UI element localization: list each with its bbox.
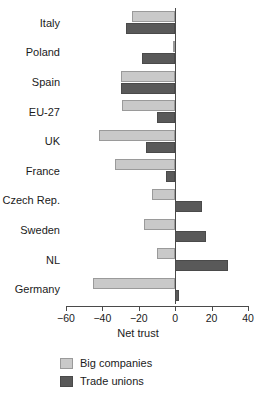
category-label-eu-27: EU-27 — [29, 106, 60, 118]
bar-france-big-companies — [115, 159, 175, 170]
x-axis-line — [66, 306, 248, 307]
category-label-uk: UK — [45, 135, 60, 147]
legend-label-trade-unions: Trade unions — [80, 375, 144, 387]
x-tick-label-40: 40 — [242, 312, 254, 324]
bar-uk-big-companies — [99, 130, 175, 141]
category-label-nl: NL — [46, 254, 60, 266]
category-label-france: France — [26, 165, 60, 177]
bar-nl-trade-unions — [175, 260, 228, 271]
x-tick-neg40 — [102, 306, 103, 311]
category-label-czech-rep: Czech Rep. — [3, 194, 60, 206]
bar-nl-big-companies — [157, 248, 175, 259]
category-label-germany: Germany — [15, 283, 60, 295]
chart-legend: Big companies Trade unions — [60, 355, 152, 391]
x-tick-neg20 — [139, 306, 140, 311]
bar-eu-27-big-companies — [122, 100, 175, 111]
category-label-sweden: Sweden — [20, 224, 60, 236]
bar-sweden-trade-unions — [175, 231, 206, 242]
legend-label-big-companies: Big companies — [80, 357, 152, 369]
legend-item-big-companies: Big companies — [60, 355, 152, 371]
x-tick-20 — [212, 306, 213, 311]
bar-france-trade-unions — [166, 171, 175, 182]
plot-area — [66, 8, 248, 304]
x-tick-label-neg60: −60 — [57, 312, 75, 324]
legend-swatch-big-companies — [60, 358, 73, 369]
bar-czech-rep-trade-unions — [175, 201, 202, 212]
bar-germany-trade-unions — [175, 290, 179, 301]
category-label-poland: Poland — [26, 46, 60, 58]
legend-item-trade-unions: Trade unions — [60, 373, 152, 389]
bar-poland-big-companies — [173, 41, 175, 52]
bar-germany-big-companies — [93, 278, 175, 289]
x-tick-0 — [175, 306, 176, 311]
bar-uk-trade-unions — [146, 142, 175, 153]
bar-italy-trade-unions — [126, 23, 175, 34]
category-label-italy: Italy — [40, 17, 60, 29]
bar-sweden-big-companies — [144, 219, 175, 230]
x-tick-40 — [248, 306, 249, 311]
category-axis-labels: ItalyPolandSpainEU-27UKFranceCzech Rep.S… — [0, 8, 60, 304]
bar-italy-big-companies — [132, 11, 176, 22]
x-tick-label-neg40: −40 — [93, 312, 111, 324]
x-tick-label-neg20: −20 — [130, 312, 148, 324]
legend-swatch-trade-unions — [60, 376, 73, 387]
x-tick-label-20: 20 — [206, 312, 218, 324]
category-label-spain: Spain — [32, 76, 60, 88]
bar-czech-rep-big-companies — [152, 189, 176, 200]
x-tick-neg60 — [66, 306, 67, 311]
bar-eu-27-trade-unions — [157, 112, 175, 123]
bar-spain-big-companies — [121, 71, 176, 82]
x-axis-title: Net trust — [0, 327, 276, 339]
x-tick-label-0: 0 — [172, 312, 178, 324]
bar-spain-trade-unions — [121, 83, 176, 94]
bar-poland-trade-unions — [142, 53, 175, 64]
net-trust-bar-chart: ItalyPolandSpainEU-27UKFranceCzech Rep.S… — [0, 0, 276, 397]
